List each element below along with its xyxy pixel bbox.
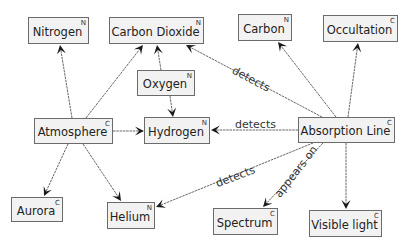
node-visible-light[interactable]: Visible lightC (309, 210, 382, 237)
node-type-badge: N (284, 16, 289, 24)
node-label: Absorption Line (301, 124, 391, 138)
node-oxygen[interactable]: OxygenN (137, 70, 195, 96)
edge-absorption-line-to-carbon (278, 42, 336, 117)
arrowhead-icon (167, 107, 176, 117)
edge-absorption-line-to-visible-light (342, 143, 351, 209)
node-carbon-dioxide[interactable]: Carbon DioxideN (109, 17, 204, 44)
node-type-badge: N (196, 19, 201, 27)
node-label: Visible light (311, 218, 378, 232)
arrowhead-icon (278, 42, 287, 52)
node-label: Helium (110, 210, 151, 224)
node-type-badge: C (55, 199, 60, 207)
node-type-badge: N (147, 204, 152, 212)
edge-atmosphere-to-carbon-dioxide (86, 45, 143, 118)
node-occultation[interactable]: OccultationC (323, 15, 398, 42)
node-hydrogen[interactable]: HydrogenN (144, 117, 210, 144)
edge-atmosphere-to-helium (83, 144, 121, 201)
node-absorption-line[interactable]: Absorption LineC (298, 117, 395, 143)
node-label: Atmosphere (38, 125, 108, 139)
edge-atmosphere-to-nitrogen (57, 45, 72, 118)
node-type-badge: C (387, 119, 392, 127)
node-type-badge: C (390, 17, 395, 25)
edge-oxygen-to-hydrogen (167, 96, 176, 117)
edge-oxygen-to-carbon-dioxide (154, 45, 163, 70)
node-helium[interactable]: HeliumN (107, 202, 155, 229)
arrowhead-icon (57, 45, 66, 55)
node-spectrum[interactable]: SpectrumC (213, 208, 278, 235)
arrowhead-icon (186, 45, 196, 53)
node-type-badge: N (202, 119, 207, 127)
edge-atmosphere-to-aurora (44, 144, 68, 196)
node-type-badge: C (374, 212, 379, 220)
node-label: Aurora (17, 204, 55, 218)
node-type-badge: C (270, 210, 275, 218)
node-aurora[interactable]: AuroraC (11, 197, 63, 222)
node-label: Hydrogen (148, 125, 204, 139)
node-type-badge: N (81, 19, 86, 27)
edge-label: detects (235, 118, 276, 131)
node-label: Oxygen (143, 77, 187, 91)
node-type-badge: C (105, 120, 110, 128)
edge-absorption-line-to-occultation (348, 43, 361, 117)
node-label: Spectrum (217, 216, 273, 230)
node-label: Carbon (243, 22, 284, 36)
node-nitrogen[interactable]: NitrogenN (28, 17, 89, 44)
node-type-badge: N (187, 72, 192, 80)
node-label: Carbon Dioxide (111, 25, 199, 39)
node-atmosphere[interactable]: AtmosphereC (34, 118, 113, 144)
edge-atmosphere-to-hydrogen (113, 127, 144, 136)
node-label: Occultation (327, 23, 393, 37)
node-carbon[interactable]: CarbonN (238, 14, 292, 41)
arrowhead-icon (134, 45, 143, 55)
node-label: Nitrogen (33, 25, 82, 39)
arrowhead-icon (112, 191, 121, 201)
